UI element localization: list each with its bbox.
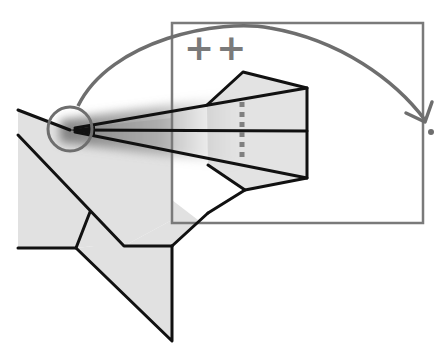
diagram-canvas: ++ (0, 0, 446, 355)
target-dot (428, 129, 434, 135)
marks-label: ++ (184, 27, 248, 68)
fold-diagram: ++ (0, 0, 446, 355)
